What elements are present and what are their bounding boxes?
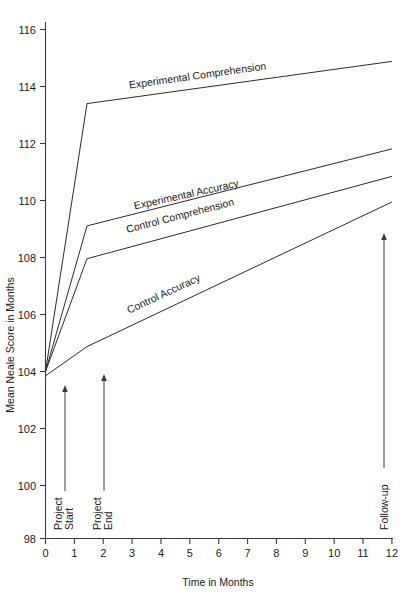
series-label-control-accuracy: Control Accuracy bbox=[125, 271, 203, 316]
x-tick-label-10: 10 bbox=[328, 547, 340, 559]
arrowhead-icon bbox=[62, 385, 68, 392]
y-tick-label-104: 104 bbox=[18, 366, 36, 378]
annotation-project-start: Project Start bbox=[52, 385, 75, 530]
y-axis-ticks bbox=[40, 30, 46, 539]
arrowhead-icon bbox=[101, 374, 107, 381]
line-chart-canvas: 116 114 112 110 108 106 104 102 100 98 0… bbox=[0, 0, 401, 599]
y-tick-label-102: 102 bbox=[18, 423, 36, 435]
x-tick-label-2: 2 bbox=[100, 547, 106, 559]
chart-figure: 116 114 112 110 108 106 104 102 100 98 0… bbox=[0, 0, 401, 599]
x-tick-label-7: 7 bbox=[245, 547, 251, 559]
x-tick-label-8: 8 bbox=[273, 547, 279, 559]
series-label-experimental-comprehension: Experimental Comprehension bbox=[128, 59, 267, 90]
x-tick-label-3: 3 bbox=[129, 547, 135, 559]
annotation-label-start: Start bbox=[63, 508, 75, 530]
series-line-experimental-comprehension bbox=[46, 61, 392, 371]
x-tick-label-0: 0 bbox=[42, 547, 48, 559]
x-tick-label-4: 4 bbox=[158, 547, 164, 559]
annotation-label-follow-up: Follow-up bbox=[378, 484, 390, 530]
y-tick-label-106: 106 bbox=[18, 309, 36, 321]
y-tick-label-116: 116 bbox=[18, 24, 36, 36]
y-tick-label-112: 112 bbox=[18, 138, 36, 150]
x-tick-label-12: 12 bbox=[386, 547, 398, 559]
x-tick-label-11: 11 bbox=[357, 547, 368, 559]
annotation-project-end: Project End bbox=[91, 374, 114, 530]
annotation-follow-up: Follow-up bbox=[378, 233, 390, 530]
x-tick-label-5: 5 bbox=[187, 547, 193, 559]
y-tick-label-114: 114 bbox=[18, 81, 36, 93]
x-tick-label-9: 9 bbox=[302, 547, 308, 559]
annotation-label-end: End bbox=[102, 511, 114, 530]
y-tick-label-100: 100 bbox=[18, 480, 36, 492]
y-axis-title: Mean Neale Score in Months bbox=[4, 277, 16, 412]
y-tick-label-110: 110 bbox=[18, 195, 36, 207]
x-tick-label-1: 1 bbox=[71, 547, 77, 559]
x-tick-label-6: 6 bbox=[216, 547, 222, 559]
arrowhead-icon bbox=[381, 233, 387, 240]
series-line-control-accuracy bbox=[46, 202, 392, 376]
x-axis-title: Time in Months bbox=[182, 576, 253, 588]
y-tick-label-98: 98 bbox=[24, 533, 36, 545]
x-axis-ticks bbox=[46, 539, 392, 545]
y-tick-label-108: 108 bbox=[18, 252, 36, 264]
